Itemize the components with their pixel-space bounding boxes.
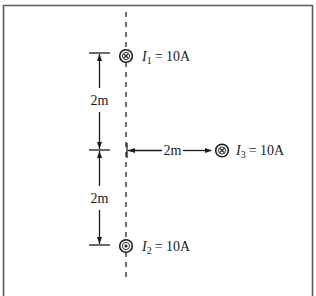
- wire-i2-out-of-page-icon: [120, 240, 133, 253]
- horizontal-distance-label: 2m: [164, 143, 182, 158]
- wire-i3-label: I3= 10A: [235, 143, 285, 160]
- wire-i3-into-page-icon: [216, 144, 229, 157]
- wire-i1-label: I1= 10A: [141, 49, 191, 66]
- upper-distance-label: 2m: [91, 93, 109, 108]
- lower-distance-label: 2m: [91, 191, 109, 206]
- wire-i2-label: I2= 10A: [141, 239, 191, 256]
- wire-diagram: 2m 2m 2m I1= 10A I3= 10A I2= 10A: [0, 0, 316, 296]
- wire-i1-into-page-icon: [120, 50, 133, 63]
